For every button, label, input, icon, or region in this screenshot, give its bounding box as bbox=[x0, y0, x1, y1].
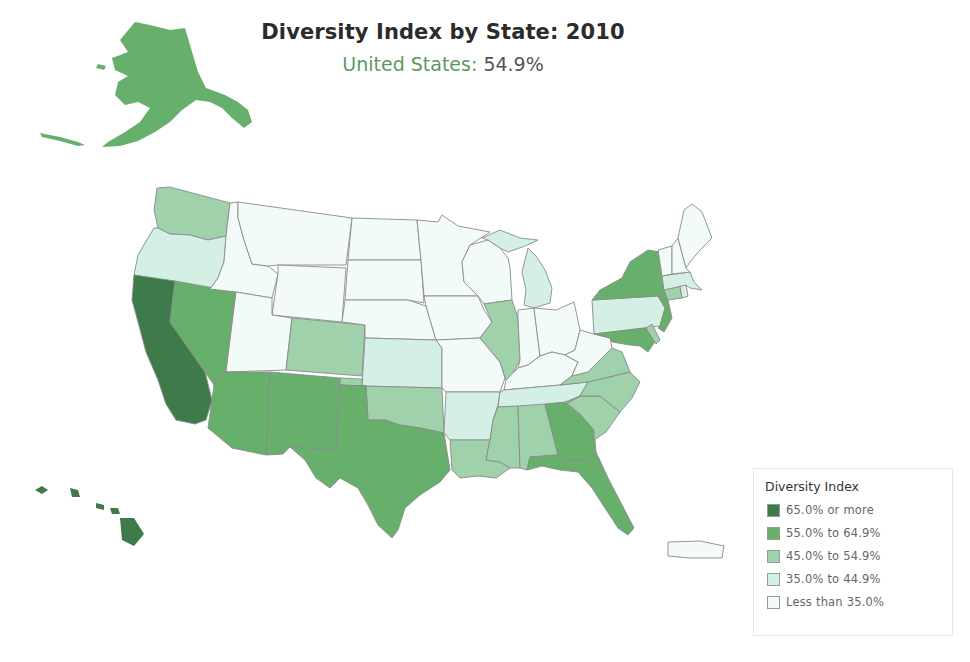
legend-item: 35.0% to 44.9% bbox=[767, 571, 881, 587]
state-south-dakota[interactable] bbox=[345, 260, 424, 303]
legend-item: 55.0% to 64.9% bbox=[767, 525, 881, 541]
state-maine[interactable] bbox=[678, 204, 712, 268]
state-iowa[interactable] bbox=[424, 296, 492, 340]
legend-label: 65.0% or more bbox=[786, 503, 874, 517]
legend-swatch-icon bbox=[767, 550, 780, 563]
legend-swatch-icon bbox=[767, 596, 780, 609]
state-kansas[interactable] bbox=[362, 338, 442, 388]
state-florida[interactable] bbox=[527, 452, 634, 535]
legend-item: Less than 35.0% bbox=[767, 594, 884, 610]
state-new-mexico[interactable] bbox=[266, 372, 340, 455]
state-colorado[interactable] bbox=[286, 318, 365, 376]
legend-label: 45.0% to 54.9% bbox=[786, 549, 881, 563]
legend-label: Less than 35.0% bbox=[786, 595, 884, 609]
state-wyoming[interactable] bbox=[272, 265, 346, 322]
legend-swatch-icon bbox=[767, 573, 780, 586]
territory-puerto-rico[interactable] bbox=[668, 541, 724, 558]
legend-label: 35.0% to 44.9% bbox=[786, 572, 881, 586]
state-hawaii[interactable] bbox=[35, 486, 144, 546]
legend-item: 65.0% or more bbox=[767, 502, 874, 518]
state-arizona[interactable] bbox=[208, 372, 270, 455]
state-ohio[interactable] bbox=[534, 302, 580, 356]
state-north-dakota[interactable] bbox=[348, 218, 421, 260]
legend-label: 55.0% to 64.9% bbox=[786, 526, 881, 540]
state-alaska[interactable] bbox=[102, 22, 252, 147]
legend-item: 45.0% to 54.9% bbox=[767, 548, 881, 564]
state-new-york[interactable] bbox=[592, 250, 668, 300]
legend-swatch-icon bbox=[767, 527, 780, 540]
legend-title: Diversity Index bbox=[765, 479, 859, 494]
legend-swatch-icon bbox=[767, 504, 780, 517]
state-montana[interactable] bbox=[238, 202, 352, 266]
legend: Diversity Index 65.0% or more 55.0% to 6… bbox=[753, 468, 953, 636]
